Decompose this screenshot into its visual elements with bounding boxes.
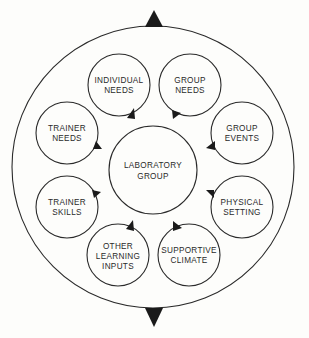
arrowhead-icon xyxy=(206,141,215,150)
node-supportive-climate: SUPPORTIVE CLIMATE xyxy=(158,221,220,286)
arrowhead-icon xyxy=(127,108,135,119)
arrowhead-icon xyxy=(206,190,214,198)
node-label: INDIVIDUAL xyxy=(95,76,144,85)
node-group-needs: GROUP NEEDS xyxy=(159,54,221,119)
node-label: OTHER xyxy=(103,242,133,251)
node-physical-setting: PHYSICAL SETTING xyxy=(206,176,273,238)
node-label: NEEDS xyxy=(104,86,134,95)
arrowhead-icon xyxy=(173,221,182,231)
node-label: NEEDS xyxy=(175,86,205,95)
node-label: TRAINER xyxy=(48,198,86,207)
node-label: TRAINER xyxy=(48,124,86,133)
node-trainer-needs: TRAINER NEEDS xyxy=(36,102,102,164)
node-label: GROUP xyxy=(174,76,206,85)
node-group-events: GROUP EVENTS xyxy=(206,102,273,164)
node-label: CLIMATE xyxy=(171,256,208,265)
node-label: GROUP xyxy=(226,124,258,133)
node-label: SKILLS xyxy=(52,208,82,217)
center-label-line1: LABORATORY xyxy=(124,161,182,170)
center-node-laboratory-group: LABORATORY GROUP xyxy=(109,126,197,214)
top-arrow-icon xyxy=(145,10,163,27)
node-label: PHYSICAL xyxy=(221,198,264,207)
bottom-arrow-icon xyxy=(145,308,163,327)
node-trainer-skills: TRAINER SKILLS xyxy=(36,176,101,238)
node-label: SETTING xyxy=(223,208,261,217)
center-label-line2: GROUP xyxy=(137,172,169,181)
laboratory-group-diagram: LABORATORY GROUP INDIVIDUAL NEEDS GROUP … xyxy=(0,0,309,338)
arrowhead-icon xyxy=(93,141,102,149)
node-label: LEARNING xyxy=(96,252,140,261)
node-label: SUPPORTIVE xyxy=(161,246,217,255)
node-label: NEEDS xyxy=(52,134,82,143)
node-other-learning-inputs: OTHER LEARNING INPUTS xyxy=(87,220,149,286)
node-label: INPUTS xyxy=(102,262,134,271)
node-label: EVENTS xyxy=(225,134,260,143)
node-individual-needs: INDIVIDUAL NEEDS xyxy=(88,54,150,119)
